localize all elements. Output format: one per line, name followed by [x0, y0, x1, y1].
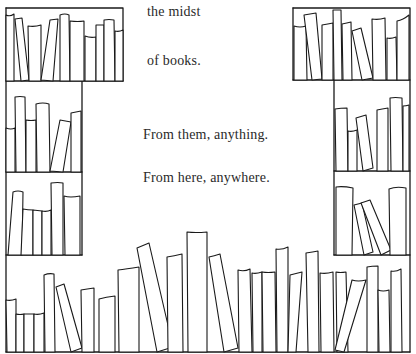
books-right-middle [335, 98, 409, 172]
books-right-lower [336, 187, 406, 255]
text-line-from-here-anywhere: From here, anywhere. [143, 170, 270, 186]
books-left-lower [8, 183, 80, 256]
text-line-from-them-anything: From them, anything. [143, 127, 268, 143]
books-left-middle [6, 97, 81, 173]
text-line-of-books: of books. [147, 53, 201, 69]
books-top-left [6, 14, 123, 81]
books-top-right [294, 10, 409, 80]
text-line-the-midst: the midst [147, 4, 201, 20]
